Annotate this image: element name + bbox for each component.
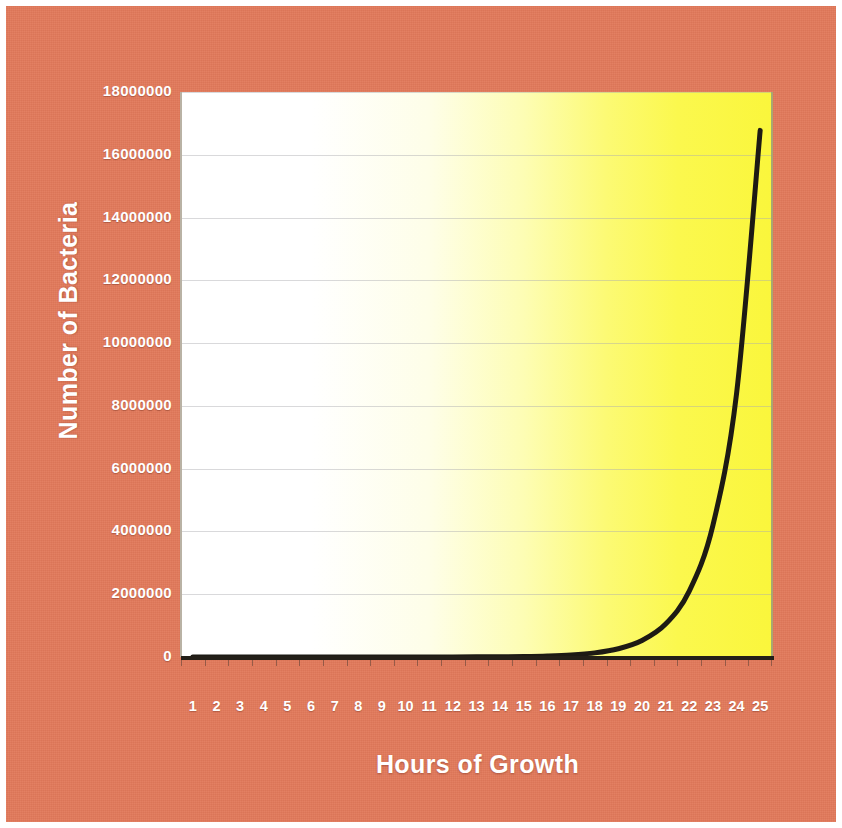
x-axis-tick xyxy=(181,660,182,666)
y-axis-tick-label: 8000000 xyxy=(112,396,173,413)
x-axis-tick xyxy=(465,660,466,666)
y-axis-tick-label: 16000000 xyxy=(103,145,172,162)
x-axis-tick xyxy=(276,660,277,666)
x-axis-tick xyxy=(252,660,253,666)
y-axis-tick-label: 10000000 xyxy=(103,333,172,350)
x-axis-tick xyxy=(347,660,348,666)
y-axis-tick-label: 2000000 xyxy=(112,584,173,601)
plot-right-edge xyxy=(771,92,773,658)
x-axis-tick-label: 9 xyxy=(378,698,386,714)
x-axis-tick xyxy=(323,660,324,666)
x-axis-tick xyxy=(441,660,442,666)
x-axis-tick xyxy=(771,660,772,666)
x-axis-tick-label: 22 xyxy=(681,698,697,714)
x-axis-tick xyxy=(607,660,608,666)
y-axis-tick-label: 4000000 xyxy=(112,521,173,538)
chart-figure: 0200000040000006000000800000010000000120… xyxy=(6,6,836,822)
x-axis-tick xyxy=(205,660,206,666)
x-axis-tick xyxy=(701,660,702,666)
x-axis-tick-label: 7 xyxy=(331,698,339,714)
x-axis-tick-label: 15 xyxy=(516,698,532,714)
growth-curve-path xyxy=(193,130,760,657)
y-axis-line xyxy=(180,92,182,657)
x-axis-ticks xyxy=(181,660,774,667)
y-axis-tick-label: 14000000 xyxy=(103,208,172,225)
x-axis-tick xyxy=(654,660,655,666)
y-axis-tick-label: 6000000 xyxy=(112,459,173,476)
y-axis-tick-label: 18000000 xyxy=(103,82,172,99)
x-axis-tick xyxy=(417,660,418,666)
x-axis-tick-label: 25 xyxy=(752,698,768,714)
x-axis-tick xyxy=(488,660,489,666)
x-axis-tick-label: 18 xyxy=(587,698,603,714)
x-axis-tick xyxy=(630,660,631,666)
x-axis-tick-label: 12 xyxy=(445,698,461,714)
y-axis-tick-label: 0 xyxy=(163,647,172,664)
x-axis-tick xyxy=(536,660,537,666)
x-axis-tick xyxy=(583,660,584,666)
x-axis-tick xyxy=(299,660,300,666)
x-axis-tick-label: 1 xyxy=(189,698,197,714)
x-axis-tick-label: 8 xyxy=(354,698,362,714)
x-axis-tick xyxy=(559,660,560,666)
x-axis-tick xyxy=(748,660,749,666)
x-axis-tick-label: 13 xyxy=(468,698,484,714)
x-axis-tick xyxy=(512,660,513,666)
x-axis-tick-label: 10 xyxy=(398,698,414,714)
x-axis-tick-label: 20 xyxy=(634,698,650,714)
x-axis-tick-label: 2 xyxy=(212,698,220,714)
y-axis-title: Number of Bacteria xyxy=(54,141,83,501)
x-axis-tick-label: 14 xyxy=(492,698,508,714)
x-axis-tick xyxy=(677,660,678,666)
x-axis-tick-label: 11 xyxy=(422,698,437,714)
growth-curve xyxy=(181,92,772,657)
x-axis-tick xyxy=(725,660,726,666)
x-axis-tick xyxy=(394,660,395,666)
x-axis-tick-label: 23 xyxy=(705,698,721,714)
x-axis-tick-label: 4 xyxy=(260,698,268,714)
x-axis-tick-label: 16 xyxy=(539,698,555,714)
x-axis-tick-label: 5 xyxy=(283,698,291,714)
y-axis-tick-labels: 0200000040000006000000800000010000000120… xyxy=(6,6,176,822)
x-axis-tick-label: 19 xyxy=(610,698,626,714)
y-axis-tick-label: 12000000 xyxy=(103,270,172,287)
plot-area xyxy=(181,92,772,657)
x-axis-tick-label: 24 xyxy=(728,698,744,714)
x-axis-tick-label: 3 xyxy=(236,698,244,714)
x-axis-tick-label: 17 xyxy=(563,698,579,714)
x-axis-tick-label: 6 xyxy=(307,698,315,714)
x-axis-title: Hours of Growth xyxy=(181,750,774,779)
x-axis-tick-labels: 1234567891011121314151617181920212223242… xyxy=(181,698,774,722)
x-axis-tick xyxy=(228,660,229,666)
x-axis-tick xyxy=(370,660,371,666)
x-axis-tick-label: 21 xyxy=(658,698,674,714)
